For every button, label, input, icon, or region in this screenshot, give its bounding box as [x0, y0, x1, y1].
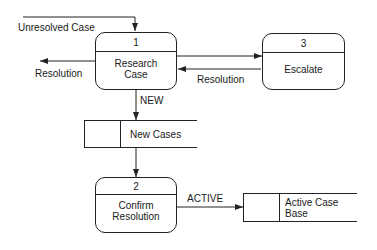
process-name-line2: Case: [96, 69, 176, 81]
process-divider: [96, 51, 176, 52]
datastore-active-case-base[interactable]: Active Case Base: [243, 193, 357, 222]
process-escalate[interactable]: 3 Escalate: [262, 33, 345, 90]
process-divider: [263, 52, 344, 53]
process-number: 1: [96, 37, 176, 48]
process-name-line1: Escalate: [263, 64, 344, 76]
process-confirm-resolution[interactable]: 2 Confirm Resolution: [95, 177, 177, 233]
datastore-divider: [279, 194, 280, 221]
process-number: 2: [96, 181, 176, 192]
label-active: ACTIVE: [187, 193, 223, 205]
process-divider: [96, 194, 176, 195]
process-research-case[interactable]: 1 Research Case: [95, 32, 177, 90]
datastore-new-cases[interactable]: New Cases: [84, 120, 197, 148]
datastore-name: Active Case Base: [285, 194, 357, 221]
label-new: NEW: [140, 95, 163, 107]
label-unresolved-case: Unresolved Case: [18, 22, 95, 34]
datastore-name: New Cases: [130, 121, 181, 147]
process-number: 3: [263, 38, 344, 49]
label-resolution-back: Resolution: [197, 74, 244, 86]
label-resolution-out: Resolution: [35, 68, 82, 80]
datastore-divider: [120, 121, 121, 147]
process-name-line2: Resolution: [96, 211, 176, 223]
